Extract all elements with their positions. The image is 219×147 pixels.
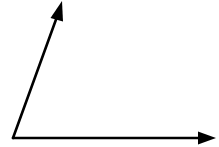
slanted-ray	[13, 14, 58, 138]
slanted-arrowhead-icon	[51, 1, 64, 22]
angle-figure	[0, 0, 219, 147]
angle-diagram	[0, 0, 219, 147]
horizontal-arrowhead-icon	[198, 132, 216, 145]
